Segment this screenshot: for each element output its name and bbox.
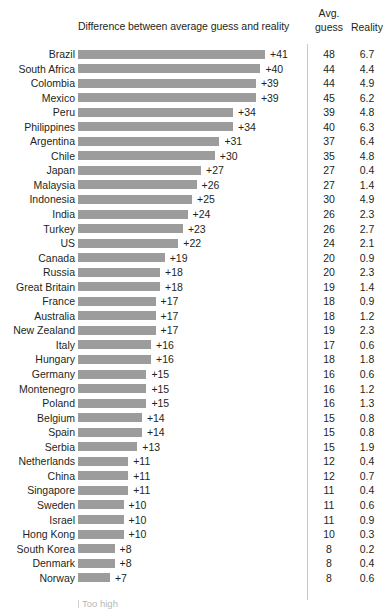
bar-value-label: +34 <box>238 121 256 133</box>
avg-guess-value: 19 <box>312 324 346 336</box>
column-header-reality: Reality <box>348 21 386 33</box>
bar <box>78 108 233 117</box>
chart-row: Belgium+14150.8 <box>0 411 390 426</box>
chart-row: Russia+18202.3 <box>0 265 390 280</box>
chart-row: Italy+16170.6 <box>0 338 390 353</box>
chart-row: New Zealand+17192.3 <box>0 323 390 338</box>
bar-track <box>78 151 215 160</box>
reality-value: 0.6 <box>348 499 386 511</box>
reality-value: 4.9 <box>348 193 386 205</box>
reality-value: 0.4 <box>348 557 386 569</box>
bar <box>78 515 124 524</box>
bar-track <box>78 559 115 568</box>
avg-guess-value: 45 <box>312 92 346 104</box>
avg-guess-value: 20 <box>312 252 346 264</box>
avg-guess-value: 20 <box>312 266 346 278</box>
country-label: South Africa <box>18 63 75 75</box>
bar <box>78 166 201 175</box>
bar-value-label: +7 <box>115 572 127 584</box>
avg-guess-value: 15 <box>312 412 346 424</box>
chart-row: Netherlands+11120.4 <box>0 454 390 469</box>
bar-track <box>78 239 178 248</box>
country-label: Malaysia <box>34 179 75 191</box>
reality-value: 6.7 <box>348 48 386 60</box>
avg-guess-value: 11 <box>312 499 346 511</box>
bar-track <box>78 180 197 189</box>
chart-title: Difference between average guess and rea… <box>78 20 303 32</box>
bar <box>78 64 260 73</box>
country-label: Montenegro <box>19 383 75 395</box>
avg-guess-value: 26 <box>312 223 346 235</box>
reality-value: 1.2 <box>348 383 386 395</box>
avg-guess-value: 35 <box>312 150 346 162</box>
bar-track <box>78 297 156 306</box>
bar-track <box>78 137 219 146</box>
bar <box>78 428 142 437</box>
bar-value-label: +15 <box>151 383 169 395</box>
country-label: Poland <box>42 397 75 409</box>
avg-guess-value: 27 <box>312 179 346 191</box>
bar <box>78 180 197 189</box>
country-label: South Korea <box>17 543 75 555</box>
chart-row: Denmark+880.4 <box>0 556 390 571</box>
bar <box>78 559 115 568</box>
bar-track <box>78 93 256 102</box>
bar <box>78 384 146 393</box>
reality-value: 6.2 <box>348 92 386 104</box>
chart-row: Indonesia+25304.9 <box>0 192 390 207</box>
country-label: Hungary <box>35 353 75 365</box>
chart-row: Norway+780.6 <box>0 571 390 586</box>
avg-guess-value: 27 <box>312 164 346 176</box>
bar-track <box>78 500 124 509</box>
bar-track <box>78 108 233 117</box>
reality-value: 0.6 <box>348 572 386 584</box>
bar-track <box>78 355 151 364</box>
bar <box>78 151 215 160</box>
country-label: Mexico <box>42 92 75 104</box>
bar-track <box>78 79 256 88</box>
bar-value-label: +16 <box>156 353 174 365</box>
avg-guess-value: 12 <box>312 455 346 467</box>
bar-track <box>78 471 128 480</box>
bar <box>78 355 151 364</box>
bar <box>78 137 219 146</box>
bar-value-label: +30 <box>220 150 238 162</box>
bar-value-label: +13 <box>142 441 160 453</box>
bar-value-label: +11 <box>133 484 150 496</box>
chart-row: South Africa+40444.4 <box>0 62 390 77</box>
country-label: France <box>42 295 75 307</box>
bar <box>78 195 192 204</box>
country-label: Denmark <box>32 557 75 569</box>
bar-value-label: +24 <box>193 208 211 220</box>
avg-guess-value: 37 <box>312 135 346 147</box>
chart-row: Mexico+39456.2 <box>0 91 390 106</box>
country-label: Turkey <box>43 223 75 235</box>
bar-value-label: +10 <box>129 528 147 540</box>
column-header-avg-guess-line1: Avg. <box>312 7 346 19</box>
chart-row: Australia+17181.2 <box>0 309 390 324</box>
country-label: Peru <box>53 106 75 118</box>
country-label: Spain <box>48 426 75 438</box>
avg-guess-value: 8 <box>312 543 346 555</box>
reality-value: 2.1 <box>348 237 386 249</box>
bar-value-label: +10 <box>129 499 147 511</box>
country-label: Serbia <box>45 441 75 453</box>
bar-track <box>78 384 146 393</box>
avg-guess-value: 40 <box>312 121 346 133</box>
bar-value-label: +15 <box>151 397 169 409</box>
chart-row: South Korea+880.2 <box>0 542 390 557</box>
bar-track <box>78 515 124 524</box>
chart-header: Difference between average guess and rea… <box>0 0 390 44</box>
chart-row: Turkey+23262.7 <box>0 222 390 237</box>
reality-value: 2.3 <box>348 208 386 220</box>
avg-guess-value: 11 <box>312 484 346 496</box>
bar-value-label: +18 <box>165 266 183 278</box>
bar-value-label: +17 <box>161 310 179 322</box>
bar-value-label: +18 <box>165 281 183 293</box>
bar-value-label: +25 <box>197 193 215 205</box>
bar-track <box>78 166 201 175</box>
bar-value-label: +11 <box>133 470 150 482</box>
reality-value: 2.7 <box>348 223 386 235</box>
bar-track <box>78 486 128 495</box>
country-label: Germany <box>32 368 75 380</box>
